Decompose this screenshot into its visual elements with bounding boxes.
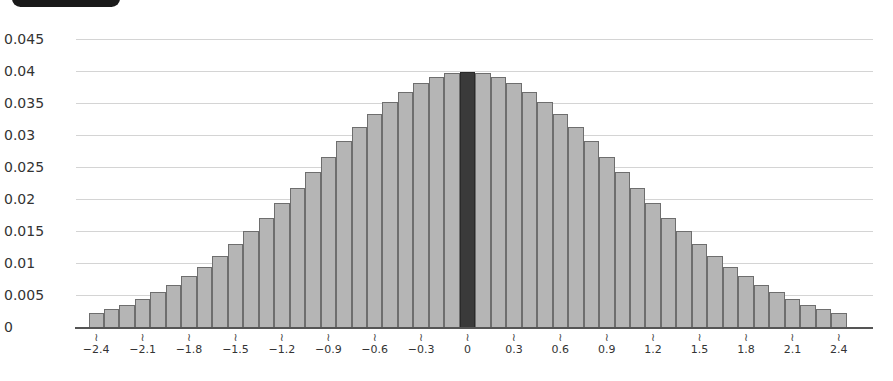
- x-tick: ≀2.4: [814, 332, 864, 356]
- x-tick-label: −0.6: [361, 343, 388, 356]
- x-tick: ≀0.9: [582, 332, 632, 356]
- x-tick: ≀0.6: [535, 332, 585, 356]
- x-tick: ≀2.1: [767, 332, 817, 356]
- bar-series: [0, 0, 893, 381]
- x-tick-label: 1.5: [691, 343, 709, 356]
- bar: [89, 313, 105, 327]
- bar: [800, 305, 816, 327]
- bar: [491, 77, 507, 327]
- bar: [645, 203, 661, 327]
- bar: [305, 172, 321, 327]
- x-tick: ≀1.2: [628, 332, 678, 356]
- bar: [692, 244, 708, 327]
- bar: [568, 127, 584, 327]
- bar: [367, 114, 383, 327]
- bar: [413, 83, 429, 327]
- bar: [615, 172, 631, 327]
- bar: [135, 299, 151, 327]
- bar: [785, 299, 801, 327]
- bar: [444, 73, 460, 327]
- x-tick-label: 1.8: [737, 343, 755, 356]
- bar: [352, 127, 368, 327]
- bar: [599, 157, 615, 327]
- bar: [537, 102, 553, 327]
- bar: [243, 231, 259, 327]
- bar: [831, 313, 847, 327]
- x-tick-label: −1.8: [176, 343, 203, 356]
- bar: [119, 305, 135, 327]
- x-axis-line: [75, 327, 873, 329]
- bar: [553, 114, 569, 327]
- bar: [676, 231, 692, 327]
- bar: [754, 285, 770, 327]
- bar: [166, 285, 182, 327]
- bar: [290, 188, 306, 328]
- bar: [104, 309, 120, 327]
- x-tick-label: −1.2: [269, 343, 296, 356]
- bar: [212, 256, 228, 327]
- bar: [228, 244, 244, 327]
- x-tick-label: −2.4: [83, 343, 110, 356]
- bar: [584, 141, 600, 327]
- x-tick-label: 2.1: [784, 343, 802, 356]
- bar: [197, 267, 213, 327]
- x-tick: ≀−2.4: [71, 332, 121, 356]
- x-tick-label: −1.5: [222, 343, 249, 356]
- bar: [321, 157, 337, 327]
- bar: [274, 203, 290, 327]
- bar: [769, 292, 785, 327]
- x-tick: ≀0: [443, 332, 493, 356]
- x-tick: ≀−1.2: [257, 332, 307, 356]
- bar: [630, 188, 646, 328]
- bar: [723, 267, 739, 327]
- x-tick: ≀1.8: [721, 332, 771, 356]
- x-tick-label: −0.9: [315, 343, 342, 356]
- bar: [738, 276, 754, 327]
- bar: [816, 309, 832, 327]
- x-tick-label: 1.2: [644, 343, 662, 356]
- bar: [382, 102, 398, 327]
- bar: [661, 218, 677, 327]
- x-tick-label: 0: [464, 343, 471, 356]
- bar: [181, 276, 197, 327]
- x-tick: ≀−0.6: [350, 332, 400, 356]
- bar: [707, 256, 723, 327]
- x-tick-label: 0.9: [598, 343, 616, 356]
- bar: [475, 73, 491, 327]
- x-tick: ≀−1.8: [164, 332, 214, 356]
- x-tick: ≀0.3: [489, 332, 539, 356]
- x-tick: ≀−2.1: [118, 332, 168, 356]
- x-tick-label: −0.3: [408, 343, 435, 356]
- bar: [506, 83, 522, 327]
- bar: [522, 92, 538, 328]
- x-tick-label: 0.3: [505, 343, 523, 356]
- bar: [259, 218, 275, 327]
- x-tick-label: 2.4: [830, 343, 848, 356]
- bar-highlighted: [460, 72, 476, 327]
- bar: [150, 292, 166, 327]
- x-tick-label: 0.6: [552, 343, 570, 356]
- bar: [336, 141, 352, 327]
- bar: [429, 77, 445, 327]
- x-tick: ≀1.5: [675, 332, 725, 356]
- x-tick: ≀−1.5: [211, 332, 261, 356]
- x-tick: ≀−0.9: [303, 332, 353, 356]
- x-tick-label: −2.1: [129, 343, 156, 356]
- x-tick: ≀−0.3: [396, 332, 446, 356]
- bar: [398, 92, 414, 328]
